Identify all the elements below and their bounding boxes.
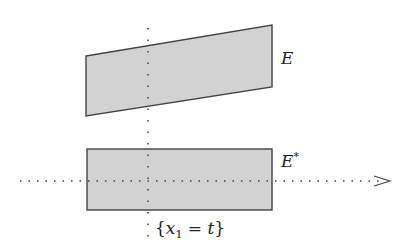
diagram-canvas: E E* {x1 = t} <box>0 0 406 250</box>
set-e-parallelogram <box>86 25 272 116</box>
set-e-star-rectangle <box>87 149 272 210</box>
axis-arrow-icon <box>374 176 390 186</box>
label-e-star: E* <box>280 150 299 171</box>
label-e: E <box>280 48 294 68</box>
slice-label: {x1 = t} <box>155 218 225 241</box>
